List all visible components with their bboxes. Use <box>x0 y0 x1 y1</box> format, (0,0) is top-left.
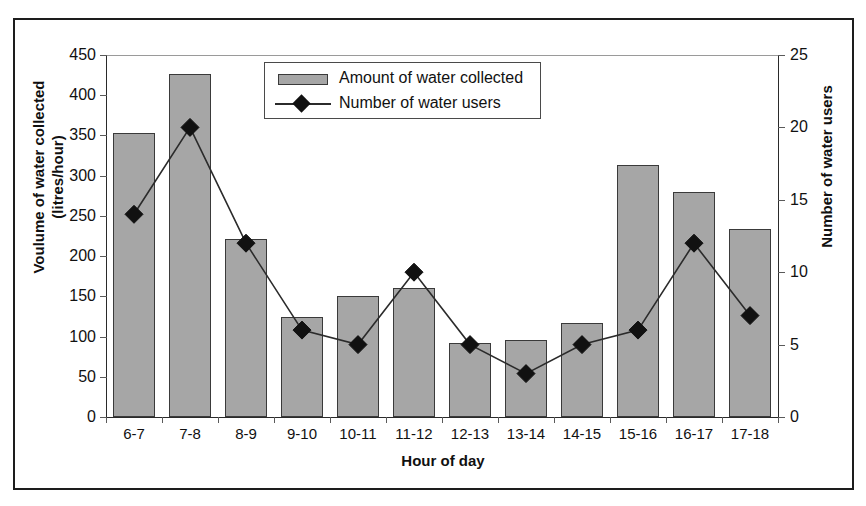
x-axis-tick <box>386 417 387 423</box>
y-axis-left-tick <box>100 216 107 217</box>
y-axis-left-tick-label: 450 <box>46 46 96 64</box>
y-axis-right-tick-label: 10 <box>790 263 830 281</box>
x-axis-tick <box>498 417 499 423</box>
x-axis-tick <box>218 417 219 423</box>
bar <box>113 133 155 417</box>
y-axis-left-tick-label: 100 <box>46 328 96 346</box>
legend-label-line: Number of water users <box>339 94 501 112</box>
bar <box>337 296 379 417</box>
y-axis-left-tick-label: 400 <box>46 86 96 104</box>
x-axis-tick <box>666 417 667 423</box>
y-axis-right-tick <box>778 345 785 346</box>
plot-left-axis-line <box>106 55 107 418</box>
plot-top-border <box>106 55 779 56</box>
chart-legend: Amount of water collected Number of wate… <box>264 62 541 119</box>
bar <box>225 239 267 417</box>
y-axis-right-tick-label: 0 <box>790 408 830 426</box>
bar <box>561 323 603 417</box>
bar <box>729 229 771 417</box>
x-axis-tick <box>610 417 611 423</box>
y-axis-left-tick <box>100 135 107 136</box>
y-axis-right-tick <box>778 200 785 201</box>
y-axis-right-tick-label: 5 <box>790 336 830 354</box>
y-axis-left-tick-label: 300 <box>46 167 96 185</box>
y-axis-right-tick <box>778 417 785 418</box>
bar <box>617 165 659 417</box>
bar <box>169 74 211 417</box>
x-axis-tick <box>554 417 555 423</box>
x-axis-tick <box>722 417 723 423</box>
chart-figure: Voulume of water collected (litres/hour)… <box>0 0 866 506</box>
y-axis-left-tick <box>100 377 107 378</box>
y-axis-left-tick <box>100 176 107 177</box>
x-axis-title: Hour of day <box>93 452 793 469</box>
y-axis-left-tick <box>100 256 107 257</box>
y-axis-left-tick-label: 350 <box>46 126 96 144</box>
y-axis-right-tick-label: 20 <box>790 118 830 136</box>
y-axis-right-tick-labels: 0510152025 <box>790 0 832 506</box>
x-axis-tick <box>106 417 107 423</box>
legend-label-bars: Amount of water collected <box>339 69 523 87</box>
y-axis-left-tick <box>100 95 107 96</box>
y-axis-left-tick <box>100 337 107 338</box>
y-axis-right-tick-label: 25 <box>790 46 830 64</box>
bar <box>393 288 435 417</box>
y-axis-left-tick-label: 150 <box>46 287 96 305</box>
bar <box>449 343 491 417</box>
bar-swatch-icon <box>278 74 328 85</box>
bar <box>505 340 547 417</box>
x-axis-tick <box>778 417 779 423</box>
y-axis-right-tick <box>778 55 785 56</box>
y-axis-left-tick-labels: 050100150200250300350400450 <box>44 0 96 506</box>
bar <box>281 317 323 417</box>
y-axis-right-tick <box>778 272 785 273</box>
bar <box>673 192 715 417</box>
y-axis-right-tick-label: 15 <box>790 191 830 209</box>
diamond-marker-icon <box>292 94 310 112</box>
y-axis-left-tick-label: 200 <box>46 247 96 265</box>
y-axis-left-tick-label: 50 <box>46 368 96 386</box>
plot-right-axis-line <box>778 55 779 418</box>
x-axis-tick <box>274 417 275 423</box>
y-axis-left-tick <box>100 55 107 56</box>
x-axis-tick <box>330 417 331 423</box>
y-axis-left-tick <box>100 296 107 297</box>
y-axis-left-tick-label: 250 <box>46 207 96 225</box>
x-axis-tick <box>442 417 443 423</box>
x-axis-tick-label: 17-18 <box>715 425 785 442</box>
y-axis-left-tick-label: 0 <box>46 408 96 426</box>
y-axis-right-tick <box>778 127 785 128</box>
x-axis-tick <box>162 417 163 423</box>
legend-item-line: Number of water users <box>265 91 542 117</box>
legend-item-bars: Amount of water collected <box>265 66 542 92</box>
